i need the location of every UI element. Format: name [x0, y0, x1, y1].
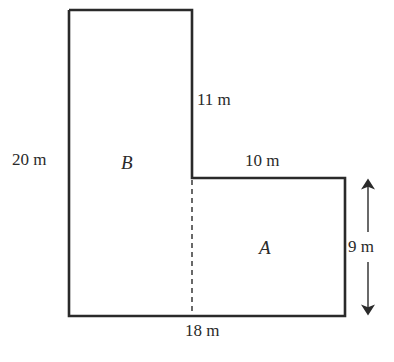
region-label-a: A	[259, 238, 271, 257]
label-step-width: 10 m	[245, 152, 279, 169]
label-bottom-width: 18 m	[185, 322, 219, 339]
label-right-height: 9 m	[348, 238, 374, 255]
l-shape-diagram	[0, 0, 394, 362]
outline	[69, 10, 345, 316]
label-inner-side: 11 m	[197, 91, 231, 108]
label-left-height: 20 m	[12, 151, 46, 168]
region-label-b: B	[121, 153, 133, 172]
